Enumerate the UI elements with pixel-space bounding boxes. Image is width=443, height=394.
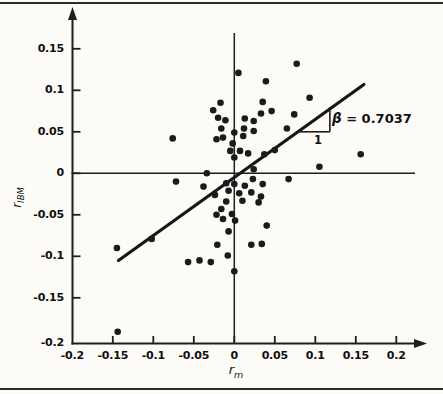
data-point bbox=[217, 100, 224, 107]
data-point bbox=[258, 193, 265, 200]
data-point bbox=[196, 257, 203, 264]
data-point bbox=[250, 176, 257, 183]
data-point bbox=[218, 125, 225, 132]
x-tick-label: 0.2 bbox=[374, 349, 418, 363]
data-point bbox=[148, 236, 155, 243]
data-point bbox=[284, 125, 291, 132]
x-axis-label: rm bbox=[214, 362, 258, 378]
data-point bbox=[250, 128, 257, 135]
data-point bbox=[235, 70, 242, 77]
slope-run-label: 1 bbox=[310, 133, 326, 147]
data-point bbox=[229, 211, 236, 218]
data-point bbox=[169, 135, 176, 142]
data-point bbox=[215, 114, 222, 121]
data-point bbox=[231, 268, 238, 275]
y-tick-label: 0 bbox=[20, 166, 64, 180]
x-tick-label: 0 bbox=[212, 349, 256, 363]
data-point bbox=[248, 189, 255, 196]
data-point bbox=[285, 176, 292, 183]
data-point bbox=[259, 241, 266, 248]
data-point bbox=[242, 115, 249, 122]
data-point bbox=[268, 108, 275, 115]
data-point bbox=[259, 99, 266, 106]
data-point bbox=[220, 216, 227, 223]
x-tick-label: -0.1 bbox=[131, 349, 175, 363]
data-point bbox=[204, 170, 211, 177]
data-point bbox=[227, 148, 234, 155]
data-point bbox=[225, 187, 232, 194]
data-point bbox=[261, 151, 268, 158]
data-point bbox=[212, 192, 219, 199]
data-point bbox=[306, 95, 313, 102]
y-tick-label: -0.15 bbox=[20, 291, 64, 305]
data-point bbox=[210, 107, 217, 114]
data-point bbox=[223, 180, 230, 187]
data-point bbox=[208, 259, 215, 266]
data-point bbox=[357, 151, 364, 158]
x-tick-label: -0.2 bbox=[50, 349, 94, 363]
data-point bbox=[259, 181, 266, 188]
beta-symbol: β bbox=[332, 110, 342, 126]
data-point bbox=[316, 163, 323, 170]
data-point bbox=[185, 259, 192, 266]
regression-line bbox=[118, 84, 363, 260]
x-tick-label: -0.15 bbox=[91, 349, 135, 363]
data-point bbox=[245, 150, 252, 157]
data-point bbox=[250, 166, 257, 173]
data-point bbox=[258, 110, 265, 117]
x-tick-label: 0.1 bbox=[293, 349, 337, 363]
y-tick-label: 0.1 bbox=[20, 83, 64, 97]
beta-value: = 0.7037 bbox=[342, 111, 412, 126]
data-point bbox=[237, 148, 244, 155]
scatter-chart-canvas bbox=[0, 0, 443, 394]
data-point bbox=[231, 129, 238, 136]
data-point bbox=[272, 147, 279, 154]
data-point bbox=[231, 181, 238, 188]
data-point bbox=[229, 140, 236, 147]
data-point bbox=[239, 197, 246, 204]
data-point bbox=[114, 329, 121, 336]
data-point bbox=[263, 78, 270, 85]
data-point bbox=[255, 199, 262, 206]
data-point bbox=[232, 217, 239, 224]
y-tick-label: 0.05 bbox=[20, 125, 64, 139]
data-point bbox=[214, 241, 221, 248]
data-point bbox=[223, 198, 230, 205]
y-axis-label-sub: IBM bbox=[16, 187, 26, 203]
data-point bbox=[225, 228, 232, 235]
data-point bbox=[293, 60, 300, 67]
x-tick-label: 0.05 bbox=[253, 349, 297, 363]
data-point bbox=[218, 206, 225, 213]
x-axis-label-sub: m bbox=[234, 369, 243, 380]
data-point bbox=[248, 241, 255, 248]
data-point bbox=[222, 117, 229, 124]
x-axis-arrowhead bbox=[414, 339, 427, 348]
y-tick-label: -0.1 bbox=[20, 249, 64, 263]
figure-page: rIBM rm β = 0.7037 1 0.150.10.050-0.05-0… bbox=[0, 0, 443, 394]
data-point bbox=[213, 136, 220, 143]
data-point bbox=[173, 178, 180, 185]
beta-annotation: β = 0.7037 bbox=[332, 110, 412, 128]
data-point bbox=[236, 190, 243, 197]
data-point bbox=[200, 183, 207, 190]
data-point bbox=[291, 111, 298, 118]
x-tick-label: -0.05 bbox=[172, 349, 216, 363]
data-point bbox=[220, 134, 227, 141]
data-point bbox=[263, 222, 270, 229]
data-point bbox=[114, 245, 121, 252]
y-tick-label: -0.2 bbox=[20, 336, 64, 350]
bottom-rule bbox=[0, 388, 443, 390]
data-point bbox=[240, 133, 247, 140]
data-point bbox=[213, 212, 220, 219]
data-point bbox=[241, 125, 248, 132]
data-point bbox=[225, 252, 232, 259]
x-tick-label: 0.15 bbox=[334, 349, 378, 363]
y-tick-label: -0.05 bbox=[20, 208, 64, 222]
y-axis-arrowhead bbox=[68, 7, 77, 20]
data-point bbox=[231, 154, 238, 161]
data-point bbox=[242, 183, 249, 190]
y-tick-label: 0.15 bbox=[20, 42, 64, 56]
data-point bbox=[250, 118, 257, 125]
